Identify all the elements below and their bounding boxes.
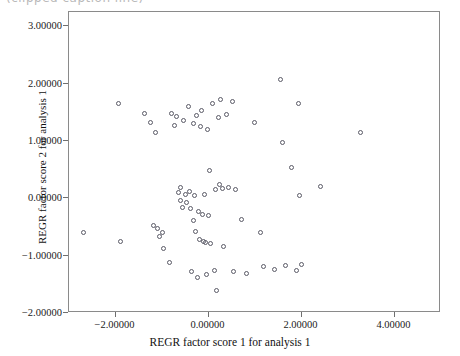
y-axis-tick-label: 1.00000 <box>0 135 62 146</box>
y-axis-title: REGR factor score 2 for analysis 1 <box>36 47 48 287</box>
y-axis-tick-label: 3.00000 <box>0 20 62 31</box>
x-axis-tick <box>208 312 209 317</box>
x-axis-tick-label: 0.00000 <box>190 319 224 330</box>
y-axis-tick <box>63 83 68 84</box>
y-axis-tick <box>63 255 68 256</box>
plot-frame <box>68 11 440 312</box>
y-axis-tick <box>63 312 68 313</box>
x-axis-tick <box>115 312 116 317</box>
x-axis-tick <box>394 312 395 317</box>
y-axis-tick <box>63 25 68 26</box>
x-axis-tick-label: 4.00000 <box>376 319 410 330</box>
y-axis-tick-label: −1.00000 <box>0 249 62 260</box>
x-axis-title: REGR factor score 1 for analysis 1 <box>0 336 460 348</box>
y-axis-tick <box>63 197 68 198</box>
y-axis-tick <box>63 140 68 141</box>
x-axis-tick-label: 2.00000 <box>283 319 317 330</box>
y-axis-tick-label: 2.00000 <box>0 77 62 88</box>
y-axis-tick-label: −2.00000 <box>0 307 62 318</box>
screenshot-page: (clipped caption line) 3.000002.000001.0… <box>0 0 460 356</box>
x-axis-tick-label: −2.00000 <box>94 319 134 330</box>
scatter-plot: 3.000002.000001.000000.00000−1.00000−2.0… <box>0 0 460 356</box>
y-axis-tick-label: 0.00000 <box>0 192 62 203</box>
x-axis-tick <box>301 312 302 317</box>
